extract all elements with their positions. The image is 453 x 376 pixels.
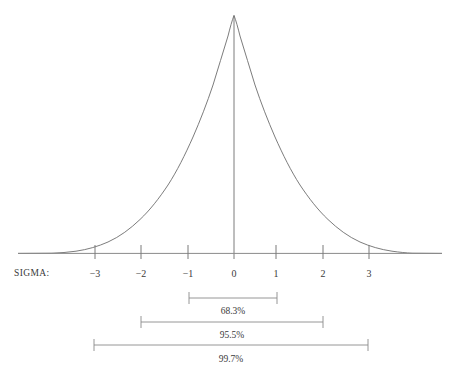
tick-label-sigma-pos1: 1 [274,268,279,279]
sigma-axis-label: SIGMA: [14,268,50,278]
range-bracket-99: 99.7% [94,339,368,364]
tick-label-sigma-neg2: −2 [136,268,147,279]
bell-curve-chart: SIGMA: −3 −2 −1 0 1 2 3 68.3% 95.5% 99.7… [0,0,453,376]
range-bracket-95-label: 95.5% [220,330,245,340]
normal-distribution-figure: SIGMA: −3 −2 −1 0 1 2 3 68.3% 95.5% 99.7… [0,0,453,376]
range-bracket-68: 68.3% [189,292,277,316]
tick-label-sigma-neg1: −1 [183,268,194,279]
range-bracket-68-label: 68.3% [221,306,246,316]
range-bracket-95: 95.5% [141,316,323,340]
tick-label-sigma-pos2: 2 [321,268,326,279]
bell-curve-path [18,16,442,254]
tick-label-sigma-pos3: 3 [367,268,372,279]
tick-label-sigma-zero: 0 [232,268,237,279]
range-bracket-99-label: 99.7% [219,354,244,364]
tick-label-sigma-neg3: −3 [90,268,101,279]
